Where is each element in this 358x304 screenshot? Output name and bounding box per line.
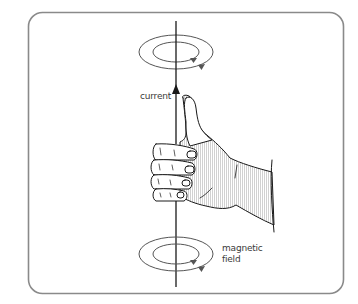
magnetic-field-label-line1: magnetic [222,243,263,254]
magnetic-field-label: magnetic field [222,243,263,265]
fingernail [185,166,194,173]
magnetic-field-label-line2: field [222,254,263,265]
fingernail [177,192,184,198]
right-hand-grip-rule-diagram: current magnetic field [0,0,358,304]
fingernail [182,180,190,186]
current-label: current [140,91,171,102]
fingernail [187,151,196,158]
